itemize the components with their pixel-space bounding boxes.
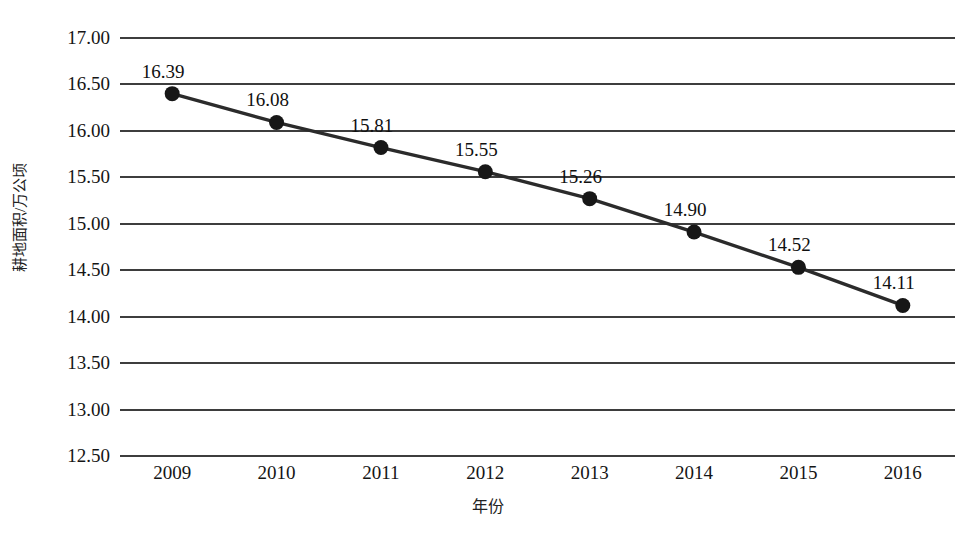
x-axis-tick-label: 2011 — [362, 463, 399, 482]
y-axis-tick-label: 15.50 — [40, 167, 110, 186]
data-point-label: 15.81 — [351, 116, 394, 135]
y-axis-tick-label: 13.00 — [40, 399, 110, 418]
data-point-label: 14.11 — [873, 273, 915, 292]
data-point-marker — [687, 225, 702, 240]
y-axis-tick-label: 16.50 — [40, 74, 110, 93]
x-axis-tick-label: 2014 — [675, 463, 713, 482]
series-markers — [165, 86, 911, 313]
x-axis-title: 年份 — [0, 493, 975, 517]
x-axis-tick-label: 2013 — [571, 463, 609, 482]
y-axis-title: 耕地面积/万公顷 — [8, 118, 29, 318]
gridline — [120, 455, 955, 457]
data-point-marker — [791, 260, 806, 275]
y-axis-tick-label: 14.00 — [40, 306, 110, 325]
x-axis-tick-label: 2016 — [884, 463, 922, 482]
x-axis-tick-label: 2009 — [153, 463, 191, 482]
data-point-label: 14.52 — [768, 235, 811, 254]
y-axis-tick-label: 15.00 — [40, 213, 110, 232]
x-axis-tick-label: 2015 — [779, 463, 817, 482]
data-point-label: 14.90 — [664, 200, 707, 219]
data-point-label: 15.55 — [455, 140, 498, 159]
y-axis-tick-label: 14.50 — [40, 260, 110, 279]
data-point-label: 15.26 — [559, 167, 602, 186]
chart-title — [0, 0, 975, 3]
y-axis-tick-label: 17.00 — [40, 28, 110, 47]
data-point-marker — [582, 191, 597, 206]
x-axis-tick-label: 2012 — [466, 463, 504, 482]
x-axis-tick-label: 2010 — [258, 463, 296, 482]
data-point-marker — [895, 298, 910, 313]
y-axis-tick-label: 13.50 — [40, 353, 110, 372]
data-point-marker — [269, 115, 284, 130]
data-point-marker — [373, 140, 388, 155]
y-axis-tick-label: 12.50 — [40, 446, 110, 465]
data-point-label: 16.08 — [246, 90, 289, 109]
chart-figure: 耕地面积/万公顷 17.0016.5016.0015.5015.0014.501… — [0, 0, 975, 534]
y-axis-tick-label: 16.00 — [40, 120, 110, 139]
data-point-marker — [478, 164, 493, 179]
data-point-marker — [165, 86, 180, 101]
data-point-label: 16.39 — [142, 62, 185, 81]
